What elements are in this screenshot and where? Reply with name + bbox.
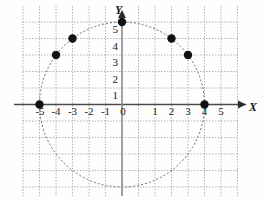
- y-axis-label: Y: [115, 3, 122, 18]
- x-tick-label: -4: [48, 105, 64, 117]
- x-axis-label: X: [249, 100, 257, 115]
- data-point: [118, 18, 126, 26]
- data-point: [167, 34, 175, 42]
- plot-canvas: [0, 0, 270, 205]
- x-tick-label: 5: [213, 105, 229, 117]
- y-tick-label: 3: [106, 56, 118, 68]
- x-axis-arrow: [238, 101, 246, 109]
- y-tick-label: 1: [106, 89, 118, 101]
- x-tick-label: 2: [164, 105, 180, 117]
- y-tick-label: 5: [106, 23, 118, 35]
- data-point: [184, 51, 192, 59]
- data-point: [68, 34, 76, 42]
- y-tick-label: 4: [106, 40, 118, 52]
- y-tick-label: 2: [106, 73, 118, 85]
- x-tick-label: 4: [197, 105, 213, 117]
- coordinate-plane-figure: Y X -5 -4 -3 -2 -1 0 1 2 3 4 5 1 2 3 4 5: [0, 0, 270, 205]
- x-tick-label: 0: [115, 105, 131, 117]
- x-tick-label: 1: [147, 105, 163, 117]
- x-tick-label: -3: [65, 105, 81, 117]
- x-tick-label: -2: [81, 105, 97, 117]
- data-point: [52, 51, 60, 59]
- x-tick-label: -5: [32, 105, 48, 117]
- x-tick-label: 3: [180, 105, 196, 117]
- x-tick-label: -1: [98, 105, 114, 117]
